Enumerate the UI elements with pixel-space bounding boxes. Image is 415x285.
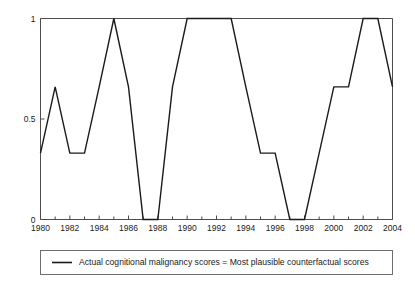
x-tick-label: 1998 (295, 223, 314, 233)
y-tick-label: 0 (31, 215, 36, 225)
x-axis-ticks (41, 216, 393, 220)
x-tick-label: 1986 (119, 223, 138, 233)
y-tick-label: 0.5 (24, 114, 36, 124)
x-tick-label: 2000 (324, 223, 343, 233)
legend-label: Actual cognitional malignancy scores = M… (79, 257, 369, 267)
axis-frame (41, 19, 393, 220)
x-tick-label: 1992 (207, 223, 226, 233)
x-tick-label: 2004 (383, 223, 402, 233)
y-tick-label: 1 (31, 14, 36, 24)
series-line-actual-scores (41, 19, 393, 220)
x-tick-label: 1994 (236, 223, 255, 233)
y-axis-tick-labels: 00.51 (24, 14, 36, 225)
x-axis-tick-labels: 1980198219841986198819901992199419961998… (31, 223, 402, 233)
chart-container: 1980198219841986198819901992199419961998… (0, 0, 415, 285)
y-axis-ticks (41, 19, 45, 220)
x-tick-label: 1990 (178, 223, 197, 233)
x-tick-label: 1996 (266, 223, 285, 233)
x-tick-label: 1988 (148, 223, 167, 233)
x-tick-label: 1982 (60, 223, 79, 233)
line-chart-figure: 1980198219841986198819901992199419961998… (0, 0, 415, 285)
x-tick-label: 2002 (354, 223, 373, 233)
x-tick-label: 1984 (90, 223, 109, 233)
